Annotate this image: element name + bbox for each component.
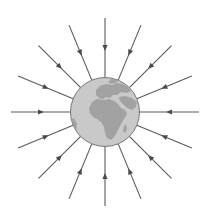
globe bbox=[70, 77, 140, 147]
arrowhead-icon bbox=[102, 45, 107, 51]
arrowhead-icon bbox=[38, 109, 44, 114]
arrowhead-icon bbox=[102, 173, 107, 179]
field-diagram bbox=[0, 0, 210, 221]
arrowhead-icon bbox=[166, 109, 172, 114]
